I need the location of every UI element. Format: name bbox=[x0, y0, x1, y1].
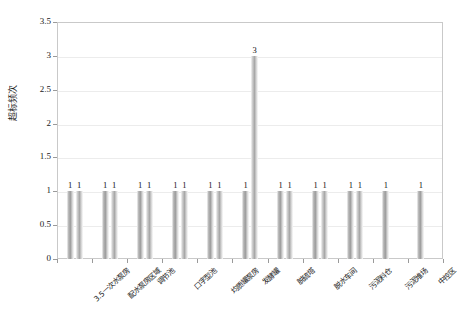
y-axis-title: 超标频次 bbox=[6, 58, 20, 148]
x-tick-label: 口字型池 bbox=[191, 265, 219, 291]
x-tick-mark bbox=[373, 259, 374, 263]
x-tick-label: 污泥堆场 bbox=[402, 265, 430, 291]
bar-group: 13 bbox=[242, 22, 258, 259]
x-tick-mark bbox=[338, 259, 339, 263]
bar-chart: 超标频次 00.511.522.533.5 111111111113111111… bbox=[0, 0, 461, 317]
x-tick-label: 脱水车间 bbox=[331, 265, 359, 291]
y-tick-label: 1.5 bbox=[25, 151, 51, 161]
bar-value-label: 1 bbox=[141, 180, 157, 190]
bar-value-label: 1 bbox=[71, 180, 87, 190]
y-tick-label: 1 bbox=[25, 185, 51, 195]
bar bbox=[321, 191, 328, 259]
bar bbox=[382, 191, 389, 259]
x-tick-mark bbox=[92, 259, 93, 263]
bar bbox=[67, 191, 74, 259]
bar-group: 11 bbox=[67, 22, 83, 259]
bar bbox=[312, 191, 319, 259]
bar-value-label: 1 bbox=[282, 180, 298, 190]
x-tick-label: 污泥料仓 bbox=[366, 265, 394, 291]
y-tick-label: 2 bbox=[25, 118, 51, 128]
bar bbox=[242, 191, 249, 259]
bar bbox=[286, 191, 293, 259]
bar bbox=[181, 191, 188, 259]
bar bbox=[347, 191, 354, 259]
bar bbox=[216, 191, 223, 259]
bar-value-label: 1 bbox=[211, 180, 227, 190]
bar-group: 1 bbox=[417, 22, 433, 259]
bar bbox=[207, 191, 214, 259]
x-tick-label: 中控区 bbox=[435, 265, 458, 287]
bar-value-label: 1 bbox=[317, 180, 333, 190]
x-tick-mark bbox=[303, 259, 304, 263]
bar-group: 11 bbox=[347, 22, 363, 259]
y-tick-label: 3.5 bbox=[25, 16, 51, 26]
bar bbox=[76, 191, 83, 259]
bar bbox=[172, 191, 179, 259]
bar bbox=[111, 191, 118, 259]
x-tick-label: 3.5一次水泵房 bbox=[90, 265, 131, 304]
x-tick-label: 脱硫塔 bbox=[295, 265, 318, 287]
x-tick-mark bbox=[443, 259, 444, 263]
bar bbox=[251, 56, 258, 259]
x-tick-mark bbox=[408, 259, 409, 263]
x-tick-mark bbox=[57, 259, 58, 263]
bar bbox=[102, 191, 109, 259]
bar-group: 11 bbox=[172, 22, 188, 259]
bar-value-label: 1 bbox=[378, 180, 394, 190]
bar-value-label: 1 bbox=[176, 180, 192, 190]
bar-group: 11 bbox=[137, 22, 153, 259]
bars-layer: 11111111111311111111 bbox=[57, 22, 443, 259]
y-tick-label: 3 bbox=[25, 50, 51, 60]
bar bbox=[417, 191, 424, 259]
bar-group: 11 bbox=[277, 22, 293, 259]
bar-value-label: 3 bbox=[247, 45, 263, 55]
bar-group: 11 bbox=[207, 22, 223, 259]
x-tick-mark bbox=[197, 259, 198, 263]
y-tick-label: 2.5 bbox=[25, 84, 51, 94]
x-tick-label: 发酵罐 bbox=[259, 265, 282, 287]
bar-group: 1 bbox=[382, 22, 398, 259]
bar bbox=[146, 191, 153, 259]
bar bbox=[137, 191, 144, 259]
bar-value-label: 1 bbox=[352, 180, 368, 190]
bar-group: 11 bbox=[102, 22, 118, 259]
bar bbox=[277, 191, 284, 259]
bar-group: 11 bbox=[312, 22, 328, 259]
y-tick-label: 0 bbox=[25, 253, 51, 263]
bar-value-label: 1 bbox=[106, 180, 122, 190]
bar bbox=[356, 191, 363, 259]
x-tick-label: 均质罐泵房 bbox=[228, 265, 261, 296]
x-tick-mark bbox=[268, 259, 269, 263]
bar-value-label: 1 bbox=[413, 180, 429, 190]
y-tick-label: 0.5 bbox=[25, 219, 51, 229]
x-tick-mark bbox=[162, 259, 163, 263]
x-tick-mark bbox=[232, 259, 233, 263]
x-tick-mark bbox=[127, 259, 128, 263]
